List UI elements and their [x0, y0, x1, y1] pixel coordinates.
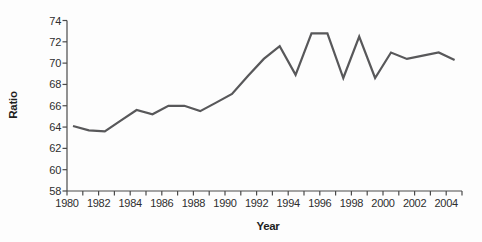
y-tick-label: 70: [49, 57, 61, 69]
x-tick-label: 1988: [182, 197, 205, 209]
ratio-vs-year-line-chart: 5860626466687072741980198219841986198819…: [0, 0, 482, 242]
x-tick-label: 1984: [119, 197, 142, 209]
x-tick-label: 2000: [371, 197, 394, 209]
y-tick-label: 64: [49, 121, 61, 133]
series-line: [73, 33, 455, 131]
x-tick-label: 1982: [87, 197, 110, 209]
x-tick-label: 1992: [245, 197, 268, 209]
y-tick-label: 62: [49, 142, 61, 154]
y-tick-label: 58: [49, 185, 61, 197]
x-tick-label: 1980: [55, 197, 78, 209]
line-chart-figure: 5860626466687072741980198219841986198819…: [0, 0, 482, 242]
y-tick-label: 66: [49, 100, 61, 112]
y-tick-label: 68: [49, 78, 61, 90]
y-tick-label: 60: [49, 164, 61, 176]
y-tick-label: 74: [49, 15, 61, 27]
x-tick-label: 1994: [277, 197, 300, 209]
x-axis-title: Year: [256, 220, 280, 232]
x-tick-label: 1990: [213, 197, 236, 209]
x-tick-label: 2004: [435, 197, 458, 209]
y-tick-label: 72: [49, 36, 61, 48]
x-tick-label: 1998: [340, 197, 363, 209]
x-tick-label: 1986: [150, 197, 173, 209]
x-tick-label: 2002: [403, 197, 426, 209]
y-axis-title: Ratio: [7, 91, 19, 119]
x-tick-label: 1996: [308, 197, 331, 209]
